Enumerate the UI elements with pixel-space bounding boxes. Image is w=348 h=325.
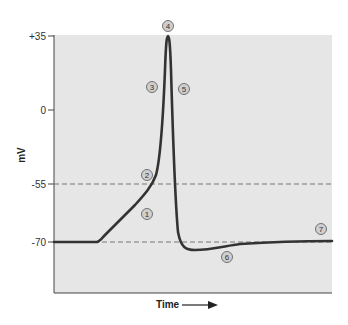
svg-text:3: 3 bbox=[150, 83, 155, 92]
marker-2: 2 bbox=[142, 170, 153, 181]
y-tick-label-35: +35 bbox=[29, 31, 46, 42]
time-arrow-icon bbox=[208, 301, 218, 309]
y-axis-title: mV bbox=[16, 147, 27, 163]
marker-6: 6 bbox=[222, 252, 233, 263]
marker-1: 1 bbox=[142, 209, 153, 220]
plot-area bbox=[54, 35, 332, 293]
y-tick-label-minus70: -70 bbox=[32, 237, 47, 248]
y-tick-label-minus55: -55 bbox=[32, 179, 47, 190]
svg-text:2: 2 bbox=[145, 171, 150, 180]
y-tick-label-0: 0 bbox=[40, 105, 46, 116]
svg-text:1: 1 bbox=[145, 210, 150, 219]
marker-7: 7 bbox=[316, 224, 327, 235]
svg-text:5: 5 bbox=[182, 85, 187, 94]
x-axis-title: Time bbox=[156, 299, 180, 310]
svg-text:7: 7 bbox=[319, 225, 324, 234]
marker-4: 4 bbox=[163, 21, 174, 32]
svg-text:4: 4 bbox=[166, 22, 171, 31]
action-potential-chart: +35 0 -55 -70 mV 1 2 3 4 5 6 7 Time bbox=[0, 0, 348, 325]
svg-text:6: 6 bbox=[225, 253, 230, 262]
marker-3: 3 bbox=[147, 82, 158, 93]
marker-5: 5 bbox=[179, 84, 190, 95]
